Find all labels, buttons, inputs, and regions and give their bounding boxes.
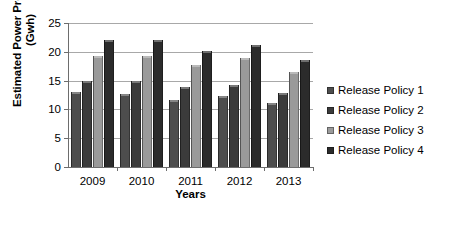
bar (180, 87, 190, 167)
x-tick-mark (264, 167, 265, 171)
x-tick-mark (313, 167, 314, 171)
bar (202, 51, 212, 167)
y-tick-label: 5 (55, 132, 61, 144)
bar-highlight (230, 85, 238, 87)
x-tick-mark (215, 167, 216, 171)
legend-item[interactable]: Release Policy 3 (327, 120, 455, 140)
bar-highlight (83, 81, 91, 83)
legend-label: Release Policy 4 (338, 144, 424, 156)
legend-swatch-icon (327, 87, 334, 94)
bar (153, 40, 163, 167)
bar (251, 45, 261, 167)
legend-item[interactable]: Release Policy 1 (327, 80, 455, 100)
x-tick-mark (166, 167, 167, 171)
bar-highlight (181, 87, 189, 89)
chart-legend: Release Policy 1Release Policy 2Release … (327, 80, 455, 160)
legend-label: Release Policy 1 (338, 84, 424, 96)
bar-highlight (219, 96, 227, 98)
legend-swatch-icon (327, 107, 334, 114)
bar-group (218, 23, 261, 167)
legend-swatch-icon (327, 147, 334, 154)
bar (229, 85, 239, 167)
y-axis-title-line2: (Gwh) (24, 0, 37, 115)
bar-group (71, 23, 114, 167)
bar (131, 81, 141, 167)
x-tick-label: 2009 (70, 175, 116, 187)
bar-highlight (268, 103, 276, 105)
bar-highlight (290, 72, 298, 74)
bar (218, 96, 228, 167)
x-tick-label: 2010 (119, 175, 165, 187)
bar-chart-figure: Estimated Power Production (Gwh) 0510152… (0, 0, 458, 230)
bar-highlight (252, 45, 260, 47)
bar (289, 72, 299, 167)
x-tick-mark (117, 167, 118, 171)
x-tick-label: 2012 (217, 175, 263, 187)
bar (82, 81, 92, 167)
bar-highlight (154, 40, 162, 42)
bar-highlight (301, 60, 309, 62)
bar-highlight (72, 92, 80, 94)
bar-highlight (105, 40, 113, 42)
bar (120, 94, 130, 167)
x-axis-title: Years (68, 188, 313, 200)
bar (71, 92, 81, 167)
bar (278, 93, 288, 167)
bar-group (120, 23, 163, 167)
x-tick-label: 2011 (168, 175, 214, 187)
bars-layer (68, 23, 313, 167)
y-tick-label: 0 (55, 161, 61, 173)
legend-item[interactable]: Release Policy 2 (327, 100, 455, 120)
bar (93, 56, 103, 167)
y-tick-label: 15 (48, 75, 61, 87)
y-tick-mark (64, 167, 68, 168)
bar-highlight (241, 58, 249, 60)
bar (240, 58, 250, 167)
y-tick-label: 10 (48, 103, 61, 115)
legend-label: Release Policy 2 (338, 104, 424, 116)
bar-highlight (279, 93, 287, 95)
bar (169, 100, 179, 167)
bar-highlight (203, 51, 211, 53)
bar-group (169, 23, 212, 167)
x-axis-line (68, 167, 314, 168)
plot-area: 0510152025 20092010201120122013 (68, 23, 313, 167)
bar (104, 40, 114, 167)
y-axis-title-line1: Estimated Power Production (11, 0, 23, 107)
y-tick-label: 20 (48, 46, 61, 58)
bar (191, 65, 201, 167)
bar-highlight (121, 94, 129, 96)
y-axis-title: Estimated Power Production (Gwh) (11, 0, 39, 115)
legend-swatch-icon (327, 127, 334, 134)
bar (142, 56, 152, 167)
y-tick-label: 25 (48, 17, 61, 29)
bar-highlight (94, 56, 102, 58)
bar-highlight (132, 81, 140, 83)
x-tick-label: 2013 (266, 175, 312, 187)
bar (300, 60, 310, 167)
bar-highlight (192, 65, 200, 67)
bar (267, 103, 277, 167)
bar-highlight (143, 56, 151, 58)
bar-group (267, 23, 310, 167)
bar-highlight (170, 100, 178, 102)
legend-label: Release Policy 3 (338, 124, 424, 136)
legend-item[interactable]: Release Policy 4 (327, 140, 455, 160)
